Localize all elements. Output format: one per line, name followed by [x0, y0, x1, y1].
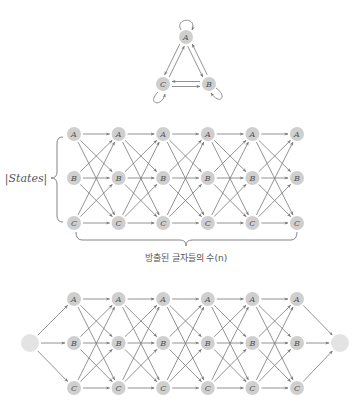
- trellis-with-terminals: ABCABCABCABCABCABC: [21, 292, 349, 395]
- state-label: A: [293, 295, 300, 304]
- trellis-node-c-4: C: [201, 381, 215, 395]
- state-label: C: [160, 80, 166, 89]
- hmm-diagram: ABC ABCABCABCABCABCABC |States| 방출된 글자들의…: [0, 0, 359, 409]
- trellis-node-c-4: C: [201, 216, 215, 230]
- state-label: B: [205, 80, 212, 89]
- state-label: B: [204, 174, 211, 183]
- state-label: A: [249, 130, 256, 139]
- state-label: C: [205, 384, 211, 393]
- trellis-node-b-3: B: [156, 171, 170, 185]
- trellis-node-b-6: B: [290, 171, 304, 185]
- trellis-node-b-1: B: [67, 171, 81, 185]
- trellis-node-c-6: C: [290, 216, 304, 230]
- start-node: [21, 334, 39, 352]
- states-brace: [51, 137, 63, 222]
- state-label: B: [115, 339, 122, 348]
- state-label: C: [160, 384, 166, 393]
- trellis-node-c-6: C: [290, 381, 304, 395]
- trellis-node-a-4: A: [201, 127, 215, 141]
- trellis-node-b-1: B: [67, 336, 81, 350]
- state-label: B: [159, 174, 166, 183]
- transition-arrow: [303, 305, 332, 335]
- state-label: A: [70, 130, 77, 139]
- state-label: A: [115, 130, 122, 139]
- self-loop-arrow: [154, 92, 165, 103]
- state-label: A: [182, 33, 189, 42]
- state-node-a: A: [179, 30, 193, 44]
- trellis-node-a-6: A: [290, 292, 304, 306]
- trellis-node-a-1: A: [67, 292, 81, 306]
- state-label: C: [116, 219, 122, 228]
- state-label: B: [70, 339, 77, 348]
- trellis-node-b-5: B: [245, 336, 259, 350]
- trellis-node-c-1: C: [67, 381, 81, 395]
- state-label: A: [293, 130, 300, 139]
- state-label: B: [293, 174, 300, 183]
- emitted-length-brace: [76, 232, 297, 246]
- state-label: A: [115, 295, 122, 304]
- state-label: B: [115, 174, 122, 183]
- transition-arrow: [303, 351, 332, 382]
- trellis-node-a-6: A: [290, 127, 304, 141]
- state-label: B: [248, 174, 255, 183]
- trellis-node-c-5: C: [245, 381, 259, 395]
- state-label: C: [249, 384, 255, 393]
- trellis-node-a-3: A: [156, 127, 170, 141]
- state-label: C: [160, 219, 166, 228]
- state-label: C: [294, 219, 300, 228]
- state-label: C: [71, 384, 77, 393]
- emitted-length-label: 방출된 글자들의 수(n): [145, 252, 227, 263]
- trellis-node-c-1: C: [67, 216, 81, 230]
- state-label: B: [293, 339, 300, 348]
- trellis-node-a-5: A: [245, 292, 259, 306]
- trellis-node-b-3: B: [156, 336, 170, 350]
- state-label: B: [70, 174, 77, 183]
- trellis-node-a-3: A: [156, 292, 170, 306]
- trellis-node-a-2: A: [112, 292, 126, 306]
- trellis-node-c-5: C: [245, 216, 259, 230]
- trellis-node-c-3: C: [156, 381, 170, 395]
- state-label: A: [159, 130, 166, 139]
- state-label: A: [204, 295, 211, 304]
- state-label: B: [248, 339, 255, 348]
- state-label: A: [249, 295, 256, 304]
- trellis-node-a-5: A: [245, 127, 259, 141]
- state-label: C: [116, 384, 122, 393]
- state-label: C: [294, 384, 300, 393]
- state-label: B: [159, 339, 166, 348]
- state-label: C: [71, 219, 77, 228]
- trellis-node-b-6: B: [290, 336, 304, 350]
- self-loop-arrow: [180, 20, 193, 30]
- trellis-node-a-4: A: [201, 292, 215, 306]
- transition-arrow: [38, 351, 68, 382]
- state-label: A: [159, 295, 166, 304]
- state-label: C: [205, 219, 211, 228]
- states-label: |States|: [5, 172, 48, 186]
- trellis-node-c-2: C: [112, 381, 126, 395]
- state-label: A: [204, 130, 211, 139]
- trellis-node-b-5: B: [245, 171, 259, 185]
- trellis-node-b-2: B: [112, 336, 126, 350]
- state-node-b: B: [202, 77, 216, 91]
- transition-arrow: [38, 305, 68, 335]
- trellis-node-c-3: C: [156, 216, 170, 230]
- trellis-node-b-4: B: [201, 336, 215, 350]
- trellis-node-a-2: A: [112, 127, 126, 141]
- state-transition-triangle: ABC: [154, 20, 222, 103]
- trellis-node-b-4: B: [201, 171, 215, 185]
- state-node-c: C: [156, 77, 170, 91]
- trellis-node-a-1: A: [67, 127, 81, 141]
- trellis-lattice: ABCABCABCABCABCABC: [67, 127, 304, 230]
- end-node: [331, 334, 349, 352]
- trellis-node-c-2: C: [112, 216, 126, 230]
- trellis-node-b-2: B: [112, 171, 126, 185]
- state-label: C: [249, 219, 255, 228]
- state-label: B: [204, 339, 211, 348]
- state-label: A: [70, 295, 77, 304]
